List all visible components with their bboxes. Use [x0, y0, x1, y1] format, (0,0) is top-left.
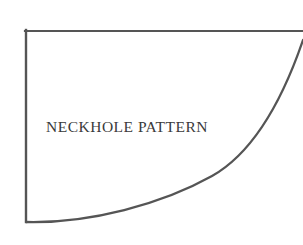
pattern-sheet: NECKHOLE PATTERN: [0, 0, 303, 245]
pattern-label: NECKHOLE PATTERN: [46, 119, 208, 135]
